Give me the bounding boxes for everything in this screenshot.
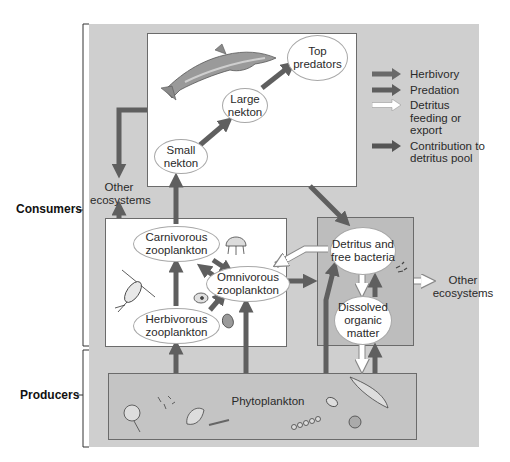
ciliate-icon: [194, 293, 208, 303]
arrow-small-to-large-nekton: [200, 122, 227, 145]
legend-label: Detritus feeding or export: [410, 99, 487, 137]
coccolith-icon: [349, 416, 361, 428]
chain-colony-icon: [292, 417, 321, 430]
dinoflagellate-icon: [222, 314, 233, 328]
predation-arrow-icon: [372, 84, 402, 96]
legend-item-contribution-detritus: Contribution to detritus pool: [372, 140, 487, 165]
node-large-nekton: Large nekton: [222, 88, 268, 123]
bacteria-cluster-icon: [158, 396, 175, 409]
diatom-icon: [350, 377, 388, 408]
node-phytoplankton: Phytoplankton: [228, 395, 308, 408]
arrow-herbivorous-to-omnivorous: [210, 296, 222, 310]
node-detritus-and-free-bacteria: Detritus and free bacteria: [330, 227, 396, 275]
legend-item-herbivory: Herbivory: [372, 68, 487, 81]
contribution-arrow-icon: [372, 140, 402, 152]
node-top-predators: Top predators: [287, 35, 348, 81]
legend-label: Predation: [410, 84, 459, 97]
legend-item-detritus-feeding: Detritus feeding or export: [372, 99, 487, 137]
legend-item-predation: Predation: [372, 84, 487, 97]
node-carnivorous-zooplankton: Carnivorous zooplankton: [133, 226, 220, 262]
arrow-large-nekton-to-top-predators: [262, 66, 290, 88]
arrow-nekton-to-detritus: [310, 186, 345, 221]
legend-label: Herbivory: [410, 68, 459, 81]
arrow-phyto-to-detritus: [326, 268, 334, 373]
node-small-nekton: Small nekton: [154, 139, 208, 174]
copepod-icon: [115, 270, 155, 312]
node-omnivorous-zooplankton: Omnivorous zooplankton: [206, 266, 290, 302]
jellyfish-icon: [226, 237, 246, 255]
detritus-feeding-arrow-icon: [372, 99, 402, 111]
herbivory-arrow-icon: [372, 68, 402, 80]
arrow-nekton-to-other-ecosystems: [119, 110, 147, 171]
node-other-ecosystems-left: Other ecosystems: [90, 181, 148, 207]
flagellate-icon: [187, 408, 204, 424]
bacteria-icon: [396, 262, 407, 272]
legend: Herbivory Predation Detritus feeding or …: [372, 68, 487, 168]
node-herbivorous-zooplankton: Herbivorous zooplankton: [133, 308, 220, 344]
chain-diatom-icon: [209, 420, 229, 425]
dinoflagellate-small-icon: [325, 396, 339, 409]
legend-label: Contribution to detritus pool: [410, 140, 487, 165]
node-other-ecosystems-right: Other ecosystems: [430, 274, 496, 300]
node-dissolved-organic-matter: Dissolved organic matter: [334, 296, 392, 345]
